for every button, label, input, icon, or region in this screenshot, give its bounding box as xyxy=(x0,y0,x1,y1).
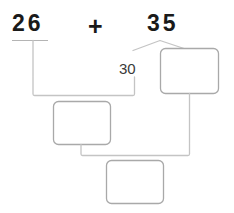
worksheet-canvas: 26 + 35 30 xyxy=(0,0,234,213)
bottom-answer-box-shape[interactable] xyxy=(107,161,164,204)
right-addend: 35 xyxy=(147,12,179,35)
plus-operator: + xyxy=(88,14,103,39)
right-answer-box-shape[interactable] xyxy=(161,49,219,94)
left-addend: 26 xyxy=(12,12,44,35)
middle-answer-box-shape[interactable] xyxy=(54,102,111,145)
decomposition-part-label: 30 xyxy=(119,61,136,76)
